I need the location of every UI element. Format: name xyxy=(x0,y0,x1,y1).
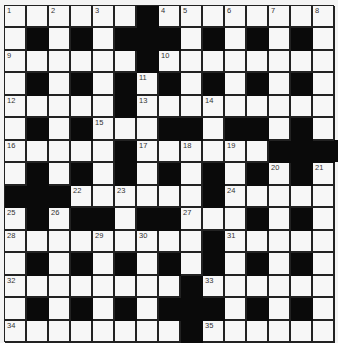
crossword-cell[interactable] xyxy=(71,321,93,343)
crossword-cell[interactable]: 30 xyxy=(137,231,159,253)
crossword-cell[interactable] xyxy=(49,163,71,185)
crossword-cell[interactable] xyxy=(93,28,115,50)
crossword-cell[interactable] xyxy=(27,51,49,73)
crossword-cell[interactable] xyxy=(181,96,203,118)
crossword-cell[interactable] xyxy=(225,298,247,320)
crossword-cell[interactable]: 8 xyxy=(313,6,335,28)
crossword-cell[interactable] xyxy=(5,118,27,140)
crossword-cell[interactable] xyxy=(93,321,115,343)
crossword-cell[interactable] xyxy=(71,231,93,253)
crossword-cell[interactable]: 25 xyxy=(5,208,27,230)
crossword-cell[interactable] xyxy=(247,321,269,343)
crossword-cell[interactable] xyxy=(5,163,27,185)
crossword-cell[interactable] xyxy=(5,73,27,95)
crossword-cell[interactable]: 11 xyxy=(137,73,159,95)
crossword-cell[interactable]: 14 xyxy=(203,96,225,118)
crossword-cell[interactable] xyxy=(225,73,247,95)
crossword-cell[interactable] xyxy=(159,321,181,343)
crossword-cell[interactable] xyxy=(5,253,27,275)
crossword-cell[interactable] xyxy=(49,73,71,95)
crossword-cell[interactable] xyxy=(247,231,269,253)
crossword-cell[interactable] xyxy=(181,253,203,275)
crossword-cell[interactable] xyxy=(181,28,203,50)
crossword-cell[interactable] xyxy=(269,208,291,230)
crossword-cell[interactable] xyxy=(5,28,27,50)
crossword-cell[interactable]: 3 xyxy=(93,6,115,28)
crossword-cell[interactable]: 27 xyxy=(181,208,203,230)
crossword-cell[interactable] xyxy=(313,298,335,320)
crossword-cell[interactable]: 9 xyxy=(5,51,27,73)
crossword-cell[interactable]: 35 xyxy=(203,321,225,343)
crossword-cell[interactable] xyxy=(159,276,181,298)
crossword-cell[interactable] xyxy=(49,298,71,320)
crossword-cell[interactable]: 28 xyxy=(5,231,27,253)
crossword-cell[interactable] xyxy=(159,231,181,253)
crossword-cell[interactable] xyxy=(291,6,313,28)
crossword-cell[interactable] xyxy=(49,231,71,253)
crossword-cell[interactable] xyxy=(247,141,269,163)
crossword-cell[interactable] xyxy=(49,253,71,275)
crossword-cell[interactable] xyxy=(71,51,93,73)
crossword-cell[interactable]: 15 xyxy=(93,118,115,140)
crossword-cell[interactable]: 20 xyxy=(269,163,291,185)
crossword-cell[interactable] xyxy=(93,163,115,185)
crossword-cell[interactable] xyxy=(225,96,247,118)
crossword-cell[interactable]: 31 xyxy=(225,231,247,253)
crossword-cell[interactable] xyxy=(203,141,225,163)
crossword-cell[interactable]: 19 xyxy=(225,141,247,163)
crossword-cell[interactable] xyxy=(93,186,115,208)
crossword-cell[interactable] xyxy=(27,6,49,28)
crossword-cell[interactable]: 6 xyxy=(225,6,247,28)
crossword-cell[interactable] xyxy=(269,118,291,140)
crossword-cell[interactable] xyxy=(181,163,203,185)
crossword-cell[interactable] xyxy=(225,163,247,185)
crossword-cell[interactable] xyxy=(291,186,313,208)
crossword-cell[interactable] xyxy=(269,186,291,208)
crossword-cell[interactable] xyxy=(93,73,115,95)
crossword-cell[interactable] xyxy=(137,298,159,320)
crossword-cell[interactable]: 32 xyxy=(5,276,27,298)
crossword-cell[interactable] xyxy=(49,321,71,343)
crossword-cell[interactable]: 21 xyxy=(313,163,335,185)
crossword-cell[interactable] xyxy=(49,276,71,298)
crossword-cell[interactable] xyxy=(313,231,335,253)
crossword-cell[interactable] xyxy=(181,186,203,208)
crossword-cell[interactable] xyxy=(93,51,115,73)
crossword-cell[interactable] xyxy=(225,321,247,343)
crossword-cell[interactable] xyxy=(313,28,335,50)
crossword-cell[interactable]: 4 xyxy=(159,6,181,28)
crossword-cell[interactable] xyxy=(137,163,159,185)
crossword-cell[interactable] xyxy=(71,96,93,118)
crossword-cell[interactable] xyxy=(225,51,247,73)
crossword-cell[interactable] xyxy=(291,231,313,253)
crossword-cell[interactable] xyxy=(159,96,181,118)
crossword-cell[interactable] xyxy=(115,51,137,73)
crossword-cell[interactable] xyxy=(269,73,291,95)
crossword-cell[interactable] xyxy=(71,6,93,28)
crossword-cell[interactable] xyxy=(115,208,137,230)
crossword-cell[interactable] xyxy=(313,321,335,343)
crossword-cell[interactable] xyxy=(93,96,115,118)
crossword-cell[interactable] xyxy=(49,141,71,163)
crossword-cell[interactable] xyxy=(225,28,247,50)
crossword-cell[interactable]: 23 xyxy=(115,186,137,208)
crossword-cell[interactable] xyxy=(27,231,49,253)
crossword-cell[interactable]: 34 xyxy=(5,321,27,343)
crossword-cell[interactable] xyxy=(137,118,159,140)
crossword-cell[interactable] xyxy=(247,186,269,208)
crossword-cell[interactable] xyxy=(291,96,313,118)
crossword-cell[interactable]: 17 xyxy=(137,141,159,163)
crossword-cell[interactable]: 22 xyxy=(71,186,93,208)
crossword-cell[interactable] xyxy=(49,96,71,118)
crossword-cell[interactable] xyxy=(269,321,291,343)
crossword-cell[interactable] xyxy=(313,96,335,118)
crossword-cell[interactable]: 26 xyxy=(49,208,71,230)
crossword-cell[interactable]: 29 xyxy=(93,231,115,253)
crossword-cell[interactable]: 7 xyxy=(269,6,291,28)
crossword-cell[interactable] xyxy=(313,208,335,230)
crossword-cell[interactable] xyxy=(247,96,269,118)
crossword-cell[interactable] xyxy=(247,6,269,28)
crossword-cell[interactable]: 13 xyxy=(137,96,159,118)
crossword-cell[interactable]: 12 xyxy=(5,96,27,118)
crossword-cell[interactable] xyxy=(203,51,225,73)
